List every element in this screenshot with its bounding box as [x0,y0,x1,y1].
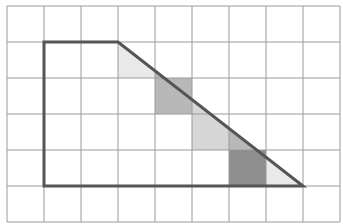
grid-lines [7,6,340,222]
grid-diagram [0,0,343,224]
shaded-region-col6-lower [229,150,266,186]
